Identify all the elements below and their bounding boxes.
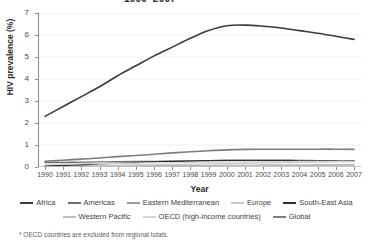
x-tick-mark	[100, 167, 101, 170]
y-tick-label: 1	[15, 141, 29, 149]
legend-line-icon	[63, 216, 76, 218]
legend-row-2: Western PacificOECD (high-income countri…	[14, 210, 359, 224]
legend-item[interactable]: Western Pacific	[63, 213, 131, 221]
legend-item[interactable]: Africa	[20, 199, 55, 207]
x-tick-mark	[118, 167, 119, 170]
x-tick-mark	[190, 167, 191, 170]
y-tick-label: 2	[15, 119, 29, 127]
y-tick-label: 5	[15, 53, 29, 61]
legend-line-icon	[273, 216, 286, 218]
y-tick-label: 4	[15, 75, 29, 83]
legend-line-icon	[127, 202, 140, 204]
y-tick-label: 3	[15, 97, 29, 105]
legend-line-icon	[20, 202, 33, 204]
y-tick-label: 6	[15, 31, 29, 39]
chart-legend: AfricaAmericasEastern MediterraneanEurop…	[14, 196, 359, 224]
y-tick-label: 7	[15, 9, 29, 17]
x-tick-mark	[172, 167, 173, 170]
x-tick-mark	[63, 167, 64, 170]
y-axis-title: HIV prevalence (%)	[5, 0, 15, 117]
legend-item[interactable]: Eastern Mediterranean	[127, 199, 219, 207]
legend-line-icon	[68, 202, 81, 204]
legend-item[interactable]: Americas	[68, 199, 115, 207]
legend-item[interactable]: OECD (high-income countries)	[143, 213, 261, 221]
legend-item-label: OECD (high-income countries)	[159, 213, 261, 221]
y-tick-mark	[35, 13, 38, 14]
x-tick-mark	[336, 167, 337, 170]
x-tick-mark	[354, 167, 355, 170]
x-tick-label: 2007	[341, 171, 367, 178]
legend-item-label: South-East Asia	[299, 199, 352, 207]
chart-title: 1990–2007	[0, 0, 300, 4]
y-tick-mark	[35, 79, 38, 80]
x-tick-mark	[318, 167, 319, 170]
legend-item-label: Global	[289, 213, 311, 221]
legend-row-1: AfricaAmericasEastern MediterraneanEurop…	[14, 196, 359, 210]
legend-item-label: Western Pacific	[79, 213, 131, 221]
x-tick-mark	[227, 167, 228, 170]
legend-item[interactable]: Global	[273, 213, 311, 221]
hiv-prevalence-chart-figure: 1990–2007 HIV prevalence (%) 01234567 19…	[0, 0, 369, 242]
legend-line-icon	[283, 202, 296, 204]
legend-item-label: Europe	[247, 199, 271, 207]
y-tick-mark	[35, 35, 38, 36]
x-axis-ticks: 1990199119921993199419951996199719981999…	[38, 167, 361, 183]
x-tick-mark	[136, 167, 137, 170]
x-tick-mark	[263, 167, 264, 170]
legend-item[interactable]: Europe	[231, 199, 271, 207]
chart-footnote: * OECD countries are excluded from regio…	[19, 231, 168, 238]
x-axis-title: Year	[38, 184, 361, 194]
y-tick-mark	[35, 123, 38, 124]
x-tick-mark	[154, 167, 155, 170]
legend-item-label: Eastern Mediterranean	[143, 199, 219, 207]
x-tick-mark	[45, 167, 46, 170]
y-tick-mark	[35, 101, 38, 102]
y-tick-mark	[35, 145, 38, 146]
y-tick-label: 0	[15, 163, 29, 171]
legend-item-label: Africa	[36, 199, 55, 207]
legend-item-label: Americas	[84, 199, 115, 207]
x-tick-mark	[281, 167, 282, 170]
x-tick-mark	[81, 167, 82, 170]
x-tick-mark	[245, 167, 246, 170]
y-axis-ticks: 01234567	[38, 13, 361, 167]
legend-line-icon	[143, 216, 156, 218]
y-tick-mark	[35, 57, 38, 58]
x-tick-mark	[299, 167, 300, 170]
x-tick-mark	[209, 167, 210, 170]
legend-item[interactable]: South-East Asia	[283, 199, 352, 207]
legend-line-icon	[231, 202, 244, 204]
